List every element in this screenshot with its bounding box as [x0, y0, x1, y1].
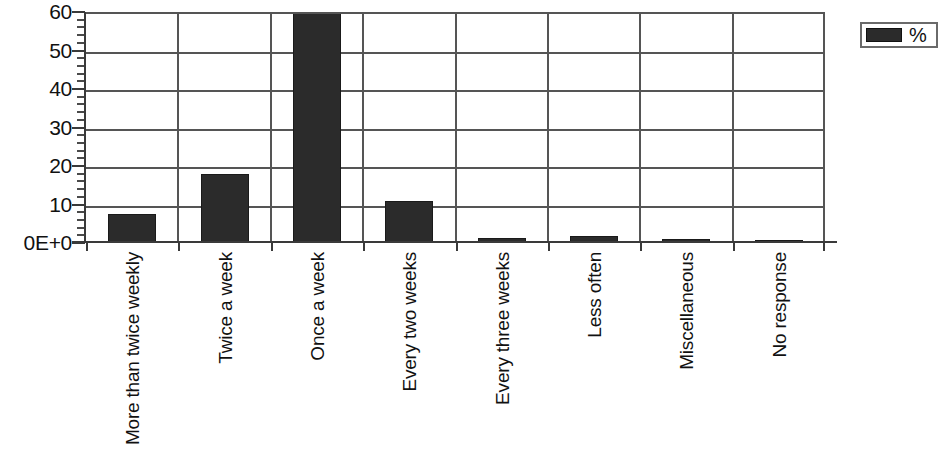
legend-swatch-percent [866, 28, 902, 42]
x-axis-category-label: Twice a week [215, 252, 234, 364]
x-axis-tick [640, 243, 642, 251]
legend: % [860, 22, 938, 48]
x-axis-category-label: Miscellaneous [677, 252, 696, 370]
y-axis-tick-labels: 0E+0102030405060 [10, 0, 72, 250]
x-axis-tick [456, 243, 458, 251]
x-axis-tick [548, 243, 550, 251]
bars-layer [86, 14, 823, 243]
bar-slot [456, 14, 548, 243]
x-axis-label-slot: Miscellaneous [640, 252, 732, 452]
x-axis-label-slot: Twice a week [178, 252, 270, 452]
x-axis-category-label: Once a week [307, 252, 326, 361]
bar-slot [363, 14, 455, 243]
y-axis-tick-label: 20 [49, 155, 72, 176]
x-axis-tick [363, 243, 365, 251]
bar-slot [640, 14, 732, 243]
x-axis-category-label: Less often [585, 252, 604, 338]
x-axis-tick [178, 243, 180, 251]
x-axis-label-slot: More than twice weekly [86, 252, 178, 452]
x-axis-tick-marks [86, 243, 825, 251]
x-axis-category-label: Every two weeks [400, 252, 419, 392]
x-axis-label-slot: No response [733, 252, 825, 452]
x-axis-tick [271, 243, 273, 251]
x-axis-label-slot: Once a week [271, 252, 363, 452]
bar-chart: 0E+0102030405060 More than twice weeklyT… [0, 0, 950, 456]
plot-area [86, 12, 825, 243]
legend-label-percent: % [909, 25, 927, 45]
x-axis-category-label: More than twice weekly [123, 252, 142, 445]
bar[interactable] [385, 201, 433, 243]
bar-slot [548, 14, 640, 243]
bar[interactable] [293, 12, 341, 243]
y-axis-tick-label: 40 [49, 78, 72, 99]
x-axis-tick [823, 243, 825, 251]
y-axis-tick-label: 10 [49, 194, 72, 215]
x-axis-label-slot: Every two weeks [363, 252, 455, 452]
y-axis-tick-label: 60 [49, 1, 72, 22]
x-axis-label-slot: Less often [548, 252, 640, 452]
x-axis-label-slot: Every three weeks [456, 252, 548, 452]
y-axis-tick-label: 50 [49, 40, 72, 61]
bar-slot [178, 14, 270, 243]
x-axis-category-labels: More than twice weeklyTwice a weekOnce a… [86, 252, 825, 452]
bar[interactable] [201, 174, 249, 243]
y-axis-tick-label: 30 [49, 117, 72, 138]
bar-slot [733, 14, 825, 243]
x-axis-tick [86, 243, 88, 251]
x-axis-category-label: Every three weeks [492, 252, 511, 405]
bar-slot [86, 14, 178, 243]
x-axis-tick [733, 243, 735, 251]
x-axis-category-label: No response [769, 252, 788, 358]
bar-slot [271, 14, 363, 243]
bar[interactable] [108, 214, 156, 243]
y-axis-tick-label: 0E+0 [24, 232, 72, 253]
